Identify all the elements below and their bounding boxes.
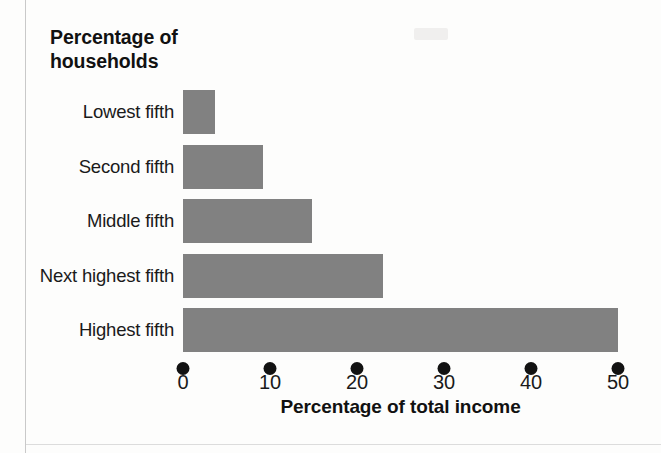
chart-figure: Percentage of households Lowest fifthSec… xyxy=(0,0,661,453)
axis-tick-label: 50 xyxy=(607,371,629,394)
bar-category-label: Second fifth xyxy=(79,145,183,189)
bar-category-label: Lowest fifth xyxy=(83,90,183,134)
x-axis-title: Percentage of total income xyxy=(280,396,520,418)
bar-category-label: Middle fifth xyxy=(87,199,183,243)
axis-tick-label: 40 xyxy=(520,371,542,394)
axis-tick-label: 20 xyxy=(346,371,368,394)
bar-rect xyxy=(183,145,263,189)
axis-tick-label: 0 xyxy=(177,371,188,394)
bar-rect xyxy=(183,199,312,243)
plot-area: Lowest fifthSecond fifthMiddle fifthNext… xyxy=(0,0,661,453)
bar-rect xyxy=(183,90,215,134)
bar-rect xyxy=(183,308,618,352)
bar-category-label: Next highest fifth xyxy=(40,254,183,298)
bar-rect xyxy=(183,254,383,298)
axis-tick-label: 30 xyxy=(433,371,455,394)
bar-category-label: Highest fifth xyxy=(79,308,183,352)
axis-tick-label: 10 xyxy=(259,371,281,394)
